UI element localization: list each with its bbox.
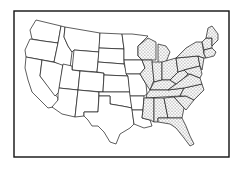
state-florida [158,118,194,146]
state-southern-new-england [204,48,216,58]
state-mississippi [142,98,154,122]
state-arkansas [130,96,144,110]
eastern-states-stippled [138,26,218,146]
state-wyoming [72,50,99,72]
western-states [25,20,152,144]
state-indiana [152,62,162,82]
state-colorado [78,71,104,92]
state-south-dakota [98,48,124,64]
us-map [0,0,241,170]
state-montana [64,27,100,52]
state-new-york [176,42,206,58]
state-kansas [103,75,130,92]
state-north-dakota [99,33,124,49]
map-figure [0,0,241,170]
